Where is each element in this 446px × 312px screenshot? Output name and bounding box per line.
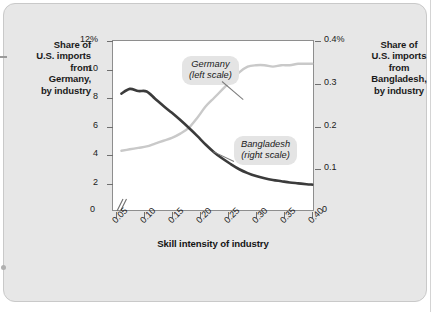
- screenshot-root: Share ofU.S. importsfromGermany,by indus…: [0, 0, 446, 312]
- tick-mark: [107, 70, 113, 71]
- tick-mark: [315, 41, 321, 42]
- left-tick-label: 2: [64, 177, 98, 187]
- left-tick-label: 6: [64, 120, 98, 130]
- right-tick-label: 0.4%: [324, 34, 364, 44]
- chart-figure: Share ofU.S. importsfromGermany,by indus…: [0, 0, 446, 312]
- left-axis-zero-label: 0: [90, 204, 95, 214]
- callout-bangladesh: Bangladesh(right scale): [234, 136, 297, 165]
- tick-mark: [107, 98, 113, 99]
- left-tick-label: 10: [64, 63, 98, 73]
- tick-mark: [107, 41, 113, 42]
- tick-mark: [107, 184, 113, 185]
- right-axis-zero-label: 0: [322, 204, 327, 214]
- tick-mark: [107, 127, 113, 128]
- callout-germany: Germany(left scale): [182, 56, 239, 85]
- left-tick-label: 12%: [64, 34, 98, 44]
- tick-mark: [315, 84, 321, 85]
- right-axis-caption: Share ofU.S. importsfromBangladesh,by in…: [357, 39, 441, 96]
- right-tick-label: 0.1: [324, 162, 364, 172]
- left-tick-label: 4: [64, 148, 98, 158]
- right-tick-label: 0.2: [324, 120, 364, 130]
- tick-mark: [107, 155, 113, 156]
- tick-mark: [315, 127, 321, 128]
- tick-mark: [315, 169, 321, 170]
- right-tick-label: 0.3: [324, 77, 364, 87]
- left-tick-label: 8: [64, 91, 98, 101]
- x-axis-title: Skill intensity of industry: [112, 238, 314, 249]
